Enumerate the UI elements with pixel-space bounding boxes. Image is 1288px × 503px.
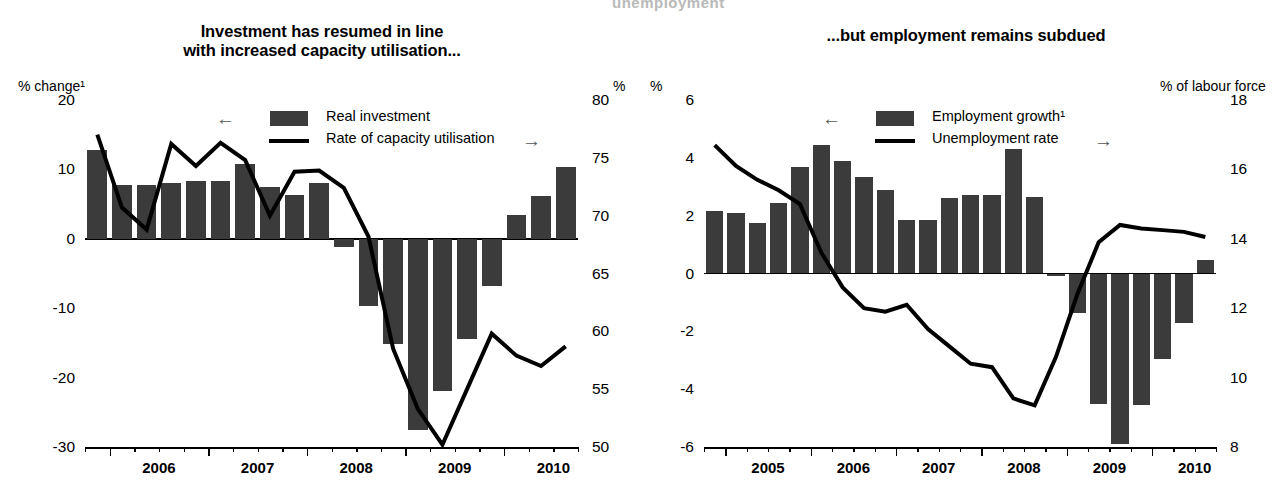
y-right-tick-60: 60 <box>592 322 638 340</box>
x-tick-minor <box>747 447 748 452</box>
x-tick-minor <box>704 447 705 452</box>
x-tick-minor <box>875 447 876 452</box>
y-left-tick-4: 4 <box>642 149 694 167</box>
x-tick-major <box>307 447 308 456</box>
x-tick-minor <box>85 447 86 452</box>
x-tick-major <box>208 447 209 456</box>
x-axis-label-2008: 2008 <box>339 459 372 476</box>
x-tick-minor <box>1109 447 1110 452</box>
x-tick-minor <box>1173 447 1174 452</box>
x-tick-minor <box>768 447 769 452</box>
y-right-tick-55: 55 <box>592 380 638 398</box>
y-right-tick-65: 65 <box>592 265 638 283</box>
x-tick-minor <box>258 447 259 452</box>
y-left-tick-0: 0 <box>642 265 694 283</box>
y-right-tick-10: 10 <box>1230 369 1276 387</box>
y-right-tick-18: 18 <box>1230 91 1276 109</box>
x-tick-major <box>405 447 406 456</box>
panel-employment-title: ...but employment remains subdued <box>644 26 1288 45</box>
x-axis-label-2009: 2009 <box>1093 459 1126 476</box>
arrow-left-icon: ← <box>216 109 235 128</box>
x-tick-minor <box>578 447 579 452</box>
x-tick-minor <box>789 447 790 452</box>
x-tick-minor <box>381 447 382 452</box>
x-tick-minor <box>479 447 480 452</box>
title-line-1: ...but employment remains subdued <box>644 26 1288 45</box>
x-tick-major <box>896 447 897 456</box>
x-axis-label-2005: 2005 <box>751 459 784 476</box>
x-tick-minor <box>832 447 833 452</box>
x-axis-label-2006: 2006 <box>142 459 175 476</box>
y-left-tick-6: 6 <box>642 91 694 109</box>
panel-investment: Investment has resumed in line with incr… <box>0 0 644 503</box>
plot-area-employment: 6420-2-4-6181614121082005200620072008200… <box>704 100 1216 447</box>
x-tick-major <box>1152 447 1153 456</box>
y-right-tick-16: 16 <box>1230 160 1276 178</box>
y-left-tick--20: -20 <box>23 369 75 387</box>
x-tick-minor <box>233 447 234 452</box>
x-tick-minor <box>1088 447 1089 452</box>
y-left-tick--6: -6 <box>642 438 694 456</box>
x-tick-minor <box>939 447 940 452</box>
x-tick-minor <box>960 447 961 452</box>
plot-area-investment: 20100-10-20-3080757065605550200620072008… <box>85 100 578 447</box>
x-tick-major <box>811 447 812 456</box>
y-left-tick--30: -30 <box>23 438 75 456</box>
legend-bar-swatch <box>270 111 308 126</box>
x-tick-minor <box>1024 447 1025 452</box>
x-tick-minor <box>1131 447 1132 452</box>
x-axis-label-2007: 2007 <box>241 459 274 476</box>
y-right-tick-8: 8 <box>1230 438 1276 456</box>
y-right-tick-80: 80 <box>592 91 638 109</box>
y-left-tick--4: -4 <box>642 380 694 398</box>
y-right-tick-12: 12 <box>1230 299 1276 317</box>
panel-employment: ...but employment remains subdued % % of… <box>644 0 1288 503</box>
legend-bar-label: Employment growth¹ <box>932 108 1065 124</box>
legend-line-swatch <box>269 139 309 143</box>
x-tick-minor <box>282 447 283 452</box>
line-series-employment <box>704 100 1216 447</box>
legend-line-label: Unemployment rate <box>932 130 1059 146</box>
y-left-tick--2: -2 <box>642 322 694 340</box>
line-series-investment <box>85 100 578 447</box>
x-tick-minor <box>529 447 530 452</box>
x-tick-minor <box>853 447 854 452</box>
legend-bar-label: Real investment <box>326 108 430 124</box>
x-tick-minor <box>1216 447 1217 452</box>
x-tick-major <box>725 447 726 456</box>
x-tick-minor <box>159 447 160 452</box>
x-axis-label-2010: 2010 <box>537 459 570 476</box>
x-tick-minor <box>1003 447 1004 452</box>
x-tick-minor <box>332 447 333 452</box>
legend-line-swatch <box>875 139 915 143</box>
arrow-left-icon: ← <box>822 109 841 128</box>
x-tick-minor <box>134 447 135 452</box>
y-left-tick-10: 10 <box>23 160 75 178</box>
x-tick-minor <box>1195 447 1196 452</box>
x-tick-minor <box>553 447 554 452</box>
y-left-tick-2: 2 <box>642 207 694 225</box>
figure-root: unemployment Investment has resumed in l… <box>0 0 1288 503</box>
y-left-tick--10: -10 <box>23 299 75 317</box>
x-tick-minor <box>455 447 456 452</box>
legend-line-label: Rate of capacity utilisation <box>326 130 494 146</box>
panel-investment-title: Investment has resumed in line with incr… <box>0 22 644 60</box>
x-axis-label-2009: 2009 <box>438 459 471 476</box>
legend-bar-swatch <box>876 111 914 126</box>
x-tick-minor <box>1045 447 1046 452</box>
y-right-tick-70: 70 <box>592 207 638 225</box>
x-tick-minor <box>184 447 185 452</box>
x-tick-minor <box>430 447 431 452</box>
title-line-1: Investment has resumed in line <box>0 22 644 41</box>
x-tick-minor <box>356 447 357 452</box>
y-right-tick-75: 75 <box>592 149 638 167</box>
title-line-2: with increased capacity utilisation... <box>0 41 644 60</box>
x-axis-label-2010: 2010 <box>1178 459 1211 476</box>
arrow-right-icon: → <box>1094 131 1113 150</box>
x-tick-minor <box>917 447 918 452</box>
x-tick-major <box>981 447 982 456</box>
x-tick-major <box>504 447 505 456</box>
x-axis-label-2008: 2008 <box>1007 459 1040 476</box>
y-right-tick-14: 14 <box>1230 230 1276 248</box>
y-left-tick-0: 0 <box>23 230 75 248</box>
